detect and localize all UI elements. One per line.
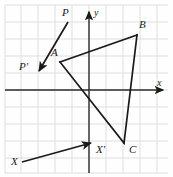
label-point-b: B (139, 19, 146, 30)
geometry-figure: P P' A B C X X' y x (0, 0, 173, 177)
label-point-x-prime: X' (96, 144, 105, 155)
label-point-p-prime: P' (19, 61, 28, 72)
label-point-a: A (51, 47, 58, 58)
label-y-axis: y (94, 8, 98, 18)
vertex-c-point (123, 142, 125, 144)
vertex-a-point (59, 61, 61, 63)
coordinate-plane-svg (0, 0, 173, 177)
grid-lines (5, 5, 168, 173)
label-point-c: C (129, 144, 136, 155)
vertex-b-point (136, 34, 138, 36)
label-x-axis: x (157, 78, 161, 88)
label-point-x: X (11, 156, 18, 167)
vector-x-to-xprime (22, 143, 91, 162)
label-point-p: P (62, 7, 69, 18)
